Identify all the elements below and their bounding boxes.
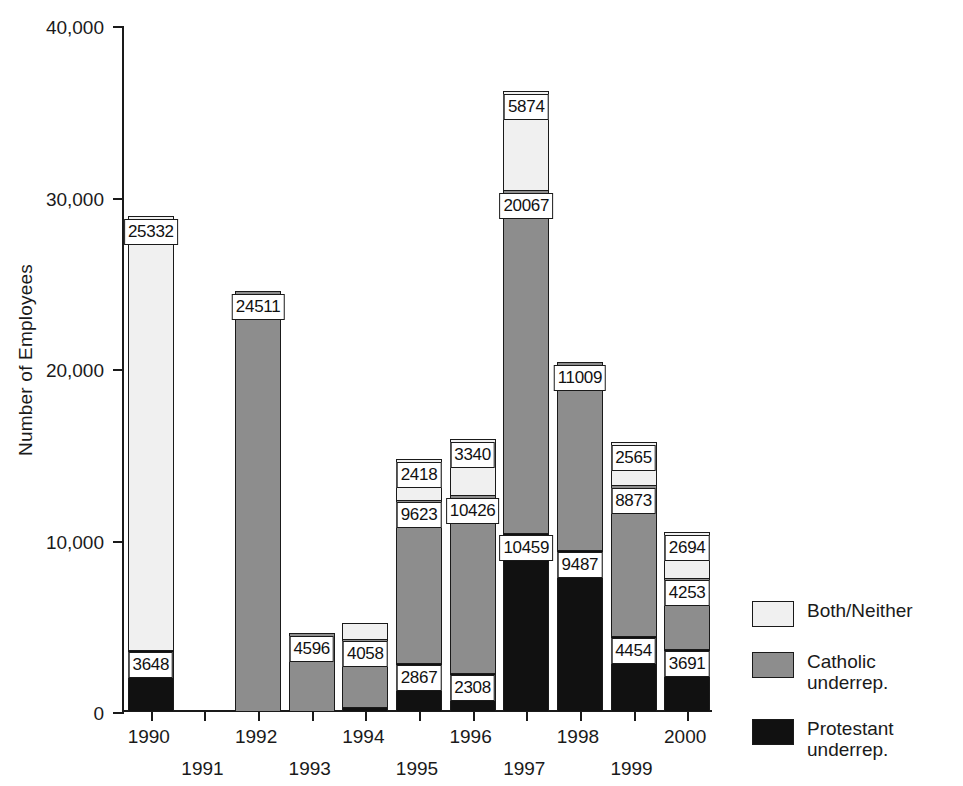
bar-segment-cath: 11009 <box>557 362 603 551</box>
bar-segment-cath: 24511 <box>235 291 281 711</box>
bar-1997: 10459200675874 <box>503 86 549 710</box>
legend-swatch-both <box>752 601 794 627</box>
y-axis-title-text: Number of Employees <box>15 264 37 456</box>
x-axis-tick-label: 1999 <box>610 758 652 780</box>
x-axis-tick-label: 2000 <box>664 726 706 748</box>
legend-item: Catholic underrep. <box>752 651 957 694</box>
y-axis-tick-label: 20,000 <box>46 360 104 382</box>
bar-segment-cath: 4058 <box>342 638 388 708</box>
x-axis-tick <box>687 710 689 721</box>
bar-segment-cath: 20067 <box>503 190 549 534</box>
bar-segment-cath: 4253 <box>664 577 710 650</box>
bar-segment-both: 2565 <box>611 442 657 486</box>
bar-segment-both: 3340 <box>450 439 496 496</box>
bar-1990: 364825332 <box>128 213 174 710</box>
bar-segment-both <box>342 623 388 640</box>
bar-segment-both: 5874 <box>503 91 549 192</box>
y-axis-tick: 40,000 <box>113 26 124 28</box>
legend-item: Protestant underrep. <box>752 718 957 761</box>
y-axis-tick-label: 40,000 <box>46 17 104 39</box>
bar-value-label: 8873 <box>611 488 656 514</box>
legend-item: Both/Neither <box>752 600 957 627</box>
bar-2000: 369142532694 <box>664 528 710 710</box>
bar-value-label: 9623 <box>397 502 442 528</box>
plot-area: 010,00020,00030,00040,000364825332245114… <box>122 26 712 712</box>
bar-value-label: 10426 <box>446 498 500 524</box>
bar-value-label: 2308 <box>450 675 495 701</box>
bar-segment-prot: 3691 <box>664 648 710 711</box>
x-axis-tick-label: 1998 <box>557 726 599 748</box>
x-axis-tick-label: 1997 <box>503 758 545 780</box>
bar-1993: 4596 <box>289 631 335 710</box>
y-axis-tick: 0 <box>113 712 124 714</box>
bar-value-label: 2418 <box>397 462 442 488</box>
x-axis-tick <box>634 710 636 721</box>
y-axis-title: Number of Employees <box>6 0 46 720</box>
bar-segment-both: 2418 <box>396 459 442 500</box>
bar-segment-prot: 2308 <box>450 672 496 712</box>
x-axis-tick <box>312 710 314 721</box>
x-axis-tick-label: 1993 <box>289 758 331 780</box>
x-axis-tick-label: 1990 <box>128 726 170 748</box>
bar-segment-cath: 8873 <box>611 485 657 637</box>
bar-segment-prot: 3648 <box>128 649 174 712</box>
bar-value-label: 3691 <box>665 651 710 677</box>
bar-1999: 445488732565 <box>611 437 657 710</box>
bar-value-label: 3340 <box>450 442 495 468</box>
bar-value-label: 20067 <box>499 193 553 219</box>
bar-1994: 4058 <box>342 618 388 710</box>
legend-label: Catholic underrep. <box>807 651 957 694</box>
y-axis-tick-label: 0 <box>93 703 104 725</box>
bar-1995: 286796232418 <box>396 454 442 710</box>
bar-1996: 2308104263340 <box>450 434 496 710</box>
bar-segment-cath: 9623 <box>396 499 442 664</box>
x-axis-tick <box>580 710 582 721</box>
bar-segment-prot: 2867 <box>396 662 442 711</box>
bar-value-label: 11009 <box>554 365 607 391</box>
x-axis-tick-label: 1992 <box>235 726 277 748</box>
y-axis-tick: 20,000 <box>113 369 124 371</box>
bar-segment-both: 2694 <box>664 532 710 578</box>
y-axis-tick: 10,000 <box>113 541 124 543</box>
x-axis-tick-label: 1995 <box>396 758 438 780</box>
x-axis-tick-label: 1994 <box>342 726 384 748</box>
legend-swatch-cath <box>752 652 794 678</box>
x-axis-tick-label: 1996 <box>449 726 491 748</box>
x-axis-tick-label: 1991 <box>181 758 223 780</box>
bar-segment-prot: 4454 <box>611 635 657 711</box>
x-axis-tick <box>526 710 528 721</box>
y-axis-tick-label: 30,000 <box>46 188 104 210</box>
bar-value-label: 2565 <box>611 445 656 471</box>
bar-value-label: 5874 <box>504 94 549 120</box>
bar-value-label: 4596 <box>289 636 334 662</box>
legend-swatch-prot <box>752 719 794 745</box>
bar-value-label: 4454 <box>611 638 656 664</box>
y-axis-tick: 30,000 <box>113 198 124 200</box>
bar-segment-prot: 10459 <box>503 532 549 711</box>
x-axis-tick <box>365 710 367 721</box>
bar-segment-cath: 10426 <box>450 495 496 674</box>
bar-1992: 24511 <box>235 290 281 710</box>
bar-value-label: 25332 <box>124 219 178 245</box>
x-axis-tick <box>419 710 421 721</box>
legend-label: Both/Neither <box>807 600 913 621</box>
bar-value-label: 10459 <box>499 535 553 561</box>
bar-segment-both: 25332 <box>128 216 174 650</box>
x-axis-tick <box>204 710 206 721</box>
bar-value-label: 4253 <box>665 580 710 606</box>
bar-value-label: 9487 <box>558 552 603 578</box>
y-axis-tick-label: 10,000 <box>46 531 104 553</box>
bar-value-label: 3648 <box>129 652 174 678</box>
bar-1998: 948711009 <box>557 359 603 711</box>
x-axis-tick <box>151 710 153 721</box>
chart-figure: Number of Employees 010,00020,00030,0004… <box>0 0 963 786</box>
bar-value-label: 2867 <box>397 665 442 691</box>
bar-value-label: 24511 <box>232 294 285 320</box>
bar-value-label: 4058 <box>343 641 388 667</box>
x-axis-tick <box>258 710 260 721</box>
bar-value-label: 2694 <box>665 535 710 561</box>
bar-segment-cath: 4596 <box>289 633 335 712</box>
x-axis-tick <box>473 710 475 721</box>
chart-legend: Both/NeitherCatholic underrep.Protestant… <box>752 600 957 784</box>
bar-segment-prot: 9487 <box>557 549 603 712</box>
